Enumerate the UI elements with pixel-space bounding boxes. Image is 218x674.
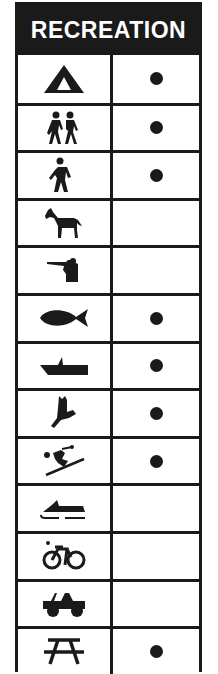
table-row-hiking xyxy=(18,103,199,151)
available-dot-icon xyxy=(150,359,163,372)
available-dot-icon xyxy=(150,455,163,468)
table-row-fishing xyxy=(18,293,199,341)
bicycle-icon xyxy=(41,541,87,571)
tent-icon xyxy=(42,63,86,95)
availability-cell xyxy=(113,201,199,246)
activity-icon-cell xyxy=(18,106,113,151)
activity-icon-cell xyxy=(18,486,113,531)
boat-icon xyxy=(38,355,90,377)
activity-icon-cell xyxy=(18,296,113,341)
horse-icon xyxy=(44,206,84,240)
table-row-horseback-riding xyxy=(18,198,199,246)
fish-icon xyxy=(38,308,90,328)
availability-cell xyxy=(113,296,199,341)
activity-icon-cell xyxy=(18,344,113,389)
activity-icon-cell xyxy=(18,439,113,484)
activity-icon-cell xyxy=(18,582,113,627)
availability-cell xyxy=(113,486,199,531)
available-dot-icon xyxy=(150,312,163,325)
available-dot-icon xyxy=(150,645,163,658)
table-row-walking xyxy=(18,150,199,198)
available-dot-icon xyxy=(150,169,163,182)
availability-cell xyxy=(113,153,199,198)
table-row-skiing xyxy=(18,436,199,484)
availability-cell xyxy=(113,582,199,627)
skier-icon xyxy=(42,445,86,477)
activity-icon-cell xyxy=(18,248,113,293)
table-row-snowmobiling xyxy=(18,483,199,531)
available-dot-icon xyxy=(150,121,163,134)
jeep-icon xyxy=(41,589,87,619)
availability-cell xyxy=(113,248,199,293)
availability-cell xyxy=(113,534,199,579)
activity-icon-cell xyxy=(18,391,113,436)
hunter-icon xyxy=(46,258,82,284)
table-row-wildlife-viewing xyxy=(18,388,199,436)
picnic-table-icon xyxy=(42,636,86,666)
hiker-icon xyxy=(49,157,79,193)
activity-icon-cell xyxy=(18,629,113,674)
bird-icon xyxy=(49,394,79,432)
activity-icon-cell xyxy=(18,534,113,579)
available-dot-icon xyxy=(150,407,163,420)
snowmobile-icon xyxy=(39,498,89,520)
table-row-picnicking xyxy=(18,626,199,674)
table-header: RECREATION xyxy=(18,5,199,55)
activity-icon-cell xyxy=(18,55,113,103)
activity-icon-cell xyxy=(18,201,113,246)
table-row-hunting xyxy=(18,245,199,293)
availability-cell xyxy=(113,344,199,389)
available-dot-icon xyxy=(150,72,163,85)
availability-cell xyxy=(113,391,199,436)
table-row-camping xyxy=(18,55,199,103)
hikers-icon xyxy=(44,111,84,145)
availability-cell xyxy=(113,106,199,151)
availability-cell xyxy=(113,55,199,103)
activity-icon-cell xyxy=(18,153,113,198)
table-row-off-road-vehicles xyxy=(18,579,199,627)
table-row-boating xyxy=(18,341,199,389)
recreation-table: RECREATION xyxy=(15,2,202,672)
header-title: RECREATION xyxy=(31,17,186,44)
availability-cell xyxy=(113,439,199,484)
table-row-bicycling xyxy=(18,531,199,579)
availability-cell xyxy=(113,629,199,674)
